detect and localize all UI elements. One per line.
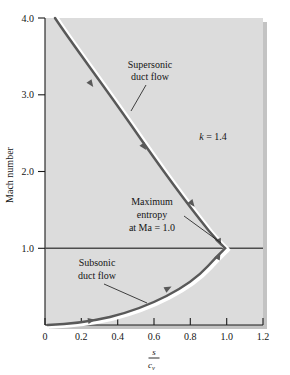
- x-tick-label-2: 0.4: [111, 331, 124, 342]
- y-tick-label-4: 4.0: [22, 13, 35, 24]
- x-axis-denominator-subscript: v: [152, 364, 155, 371]
- y-axis-title: Mach number: [4, 146, 15, 202]
- x-tick-label-1: 0.2: [75, 331, 88, 342]
- supersonic-label-line2: duct flow: [131, 71, 170, 82]
- supersonic-label-line1: Supersonic: [128, 59, 173, 70]
- fanno-line-figure: 4.0 3.0 2.0 1.0 Mach number 0 0.2 0.4 0.…: [0, 0, 290, 375]
- max-entropy-line3: at Ma = 1.0: [129, 222, 175, 233]
- max-entropy-line1: Maximum: [131, 196, 173, 207]
- subsonic-label-line1: Subsonic: [79, 257, 116, 268]
- y-tick-label-2: 2.0: [22, 166, 35, 177]
- x-tick-label-0: 0: [43, 331, 48, 342]
- mach-number-entropy-chart: 4.0 3.0 2.0 1.0 Mach number 0 0.2 0.4 0.…: [0, 0, 290, 375]
- x-axis-denominator: cv: [148, 360, 155, 371]
- k-value-annotation: k = 1.4: [199, 131, 227, 142]
- x-tick-label-5: 1.0: [220, 331, 233, 342]
- subsonic-label-line2: duct flow: [78, 270, 117, 281]
- x-tick-label-4: 0.8: [184, 331, 197, 342]
- k-value-rest: = 1.4: [204, 131, 227, 142]
- x-tick-label-6: 1.2: [257, 331, 270, 342]
- y-tick-label-1: 1.0: [22, 243, 35, 254]
- x-axis-title-fraction: s cv: [148, 347, 159, 371]
- y-tick-label-3: 3.0: [22, 89, 35, 100]
- x-tick-label-3: 0.6: [148, 331, 161, 342]
- x-axis-numerator: s: [152, 347, 156, 357]
- max-entropy-line2: entropy: [137, 209, 168, 220]
